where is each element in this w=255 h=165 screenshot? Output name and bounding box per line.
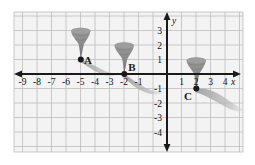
x-tick-label: 3 bbox=[208, 77, 213, 87]
tornado-top-b bbox=[115, 43, 135, 48]
point-marker-a[interactable] bbox=[78, 57, 84, 63]
x-tick-label: -8 bbox=[33, 77, 41, 87]
x-tick-label: -9 bbox=[19, 77, 27, 87]
coordinate-plane-svg: -9 -8 -7 -6 -5 -4 -3 -2 -1 1 2 3 4 3 2 1… bbox=[0, 0, 255, 165]
coordinate-plane-figure: -9 -8 -7 -6 -5 -4 -3 -2 -1 1 2 3 4 3 2 1… bbox=[0, 0, 255, 165]
y-tick-label: -1 bbox=[154, 84, 162, 94]
y-tick-label: 2 bbox=[157, 41, 162, 51]
point-label-c: C bbox=[184, 90, 192, 102]
tornado-top-a bbox=[71, 28, 91, 33]
point-label-a: A bbox=[84, 54, 92, 66]
y-tick-label: -3 bbox=[154, 113, 162, 123]
y-tick-label: 1 bbox=[157, 55, 162, 65]
y-tick-label: 3 bbox=[157, 26, 162, 36]
x-tick-label: -6 bbox=[62, 77, 70, 87]
point-marker-b[interactable] bbox=[121, 71, 127, 77]
y-axis-label: y bbox=[171, 16, 177, 26]
tornado-top-c bbox=[187, 58, 207, 63]
x-tick-label: 4 bbox=[223, 77, 228, 87]
x-tick-label: -5 bbox=[77, 77, 85, 87]
point-marker-c[interactable] bbox=[193, 86, 199, 92]
point-label-b: B bbox=[128, 61, 136, 73]
x-tick-label: 1 bbox=[179, 77, 184, 87]
y-tick-label: -4 bbox=[154, 128, 162, 138]
x-tick-label: 2 bbox=[194, 77, 199, 87]
x-tick-label: -2 bbox=[120, 77, 128, 87]
y-tick-label: -2 bbox=[154, 99, 162, 109]
x-tick-label: -4 bbox=[91, 77, 99, 87]
x-tick-label: -3 bbox=[106, 77, 114, 87]
x-tick-labels: -9 -8 -7 -6 -5 -4 -3 -2 -1 1 2 3 4 bbox=[19, 77, 228, 87]
x-tick-label: -7 bbox=[48, 77, 56, 87]
x-tick-label: -1 bbox=[135, 77, 143, 87]
x-axis-label: x bbox=[230, 77, 236, 87]
